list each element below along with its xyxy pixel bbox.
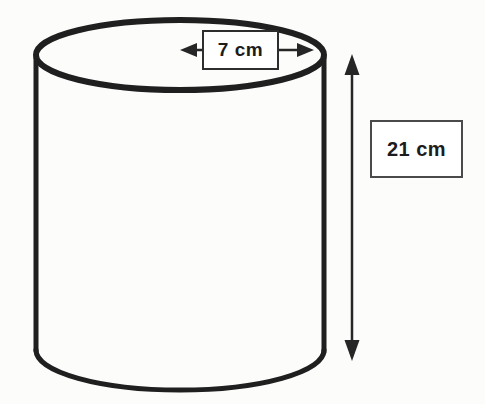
radius-label-box: 7 cm — [202, 30, 279, 70]
height-arrowhead-bottom-icon — [345, 340, 360, 361]
cylinder-diagram: 7 cm 21 cm — [0, 0, 485, 404]
cylinder-top-ellipse — [36, 20, 324, 90]
height-label-box: 21 cm — [370, 120, 463, 178]
cylinder-bottom-arc — [36, 350, 324, 390]
height-arrowhead-top-icon — [345, 54, 360, 75]
radius-arrowhead-left-icon — [180, 43, 197, 57]
radius-arrowhead-right-icon — [297, 43, 314, 57]
height-label: 21 cm — [387, 138, 446, 161]
radius-label: 7 cm — [218, 39, 263, 61]
